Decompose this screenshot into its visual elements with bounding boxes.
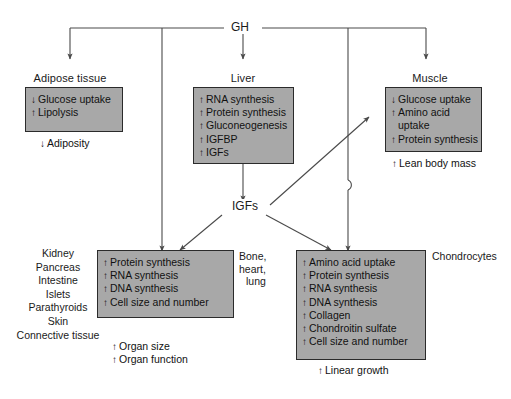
arrow-up-icon: ↑ — [391, 133, 398, 146]
arrow-up-icon: ↑ — [302, 282, 309, 295]
list-item: ↑Cell size and number — [302, 335, 419, 348]
gh-node-label: GH — [226, 20, 254, 34]
chondrocyte-side-label: Chondrocytes — [432, 250, 497, 263]
list-item: ↑Cell size and number — [103, 296, 227, 309]
organ-effects-list: ↑Protein synthesis ↑RNA synthesis ↑DNA s… — [103, 256, 227, 309]
list-item: ↑RNA synthesis — [302, 282, 419, 295]
muscle-outcome: ↑Lean body mass — [392, 157, 476, 170]
muscle-effects-list: ↓Glucose uptake ↑Amino acid uptake ↑Prot… — [391, 93, 475, 146]
arrow-down-icon: ↓ — [31, 93, 38, 106]
list-item: ↑Lipolysis — [31, 106, 116, 119]
organ-effects-box: ↑Protein synthesis ↑RNA synthesis ↑DNA s… — [97, 250, 234, 318]
arrow-up-icon: ↑ — [199, 133, 206, 146]
list-item: ↑Protein synthesis — [391, 133, 475, 146]
arrow-down-icon: ↓ — [40, 137, 47, 150]
organ-side-label: Bone, heart, lung — [239, 250, 266, 288]
organ-outcome-size: ↑Organ size — [112, 340, 170, 353]
list-item: ↓Glucose uptake — [391, 93, 475, 106]
arrow-up-icon: ↑ — [103, 296, 110, 309]
arrow-up-icon: ↑ — [112, 340, 119, 353]
list-item: Kidney — [4, 247, 112, 261]
arrow-up-icon: ↑ — [302, 335, 309, 348]
chondrocyte-effects-list: ↑Amino acid uptake ↑Protein synthesis ↑R… — [302, 256, 419, 348]
list-item: ↑Amino acid uptake — [302, 256, 419, 269]
arrow-down-icon: ↓ — [391, 93, 398, 106]
list-item: ↑DNA synthesis — [103, 282, 227, 295]
adipose-effects-list: ↓Glucose uptake ↑Lipolysis — [31, 93, 116, 119]
list-item: ↑Protein synthesis — [103, 256, 227, 269]
muscle-header: Muscle — [385, 72, 475, 84]
arrow-up-icon: ↑ — [103, 269, 110, 282]
arrow-up-icon: ↑ — [103, 256, 110, 269]
arrow-up-icon: ↑ — [112, 353, 119, 366]
arrow-up-icon: ↑ — [302, 269, 309, 282]
arrow-up-icon: ↑ — [391, 106, 398, 119]
list-item: Pancreas — [4, 261, 112, 275]
adipose-outcome: ↓Adiposity — [40, 137, 90, 150]
list-item: ↑Gluconeogenesis — [199, 119, 287, 132]
organ-side-label-line: Bone, — [239, 250, 266, 263]
list-item: ↑IGFBP — [199, 133, 287, 146]
gh-physiology-diagram: GH Adipose tissue ↓Glucose uptake ↑Lipol… — [0, 0, 511, 399]
list-item: ↓Glucose uptake — [31, 93, 116, 106]
list-item: ↑DNA synthesis — [302, 296, 419, 309]
list-item: ↑RNA synthesis — [103, 269, 227, 282]
chondrocyte-outcome: ↑Linear growth — [318, 364, 389, 377]
list-item: Connective tissue — [4, 329, 112, 343]
list-item: ↑Protein synthesis — [302, 269, 419, 282]
arrow-up-icon: ↑ — [199, 106, 206, 119]
liver-header: Liver — [193, 72, 293, 84]
organ-side-label-line: heart, — [239, 263, 266, 276]
arrow-up-icon: ↑ — [302, 309, 309, 322]
arrow-up-icon: ↑ — [302, 322, 309, 335]
arrow-up-icon: ↑ — [392, 157, 399, 170]
arrow-up-icon: ↑ — [199, 146, 206, 159]
list-item: ↑Amino acid — [391, 106, 475, 119]
list-item: ↑Chondroitin sulfate — [302, 322, 419, 335]
list-item: ↑Protein synthesis — [199, 106, 287, 119]
muscle-effects-box: ↓Glucose uptake ↑Amino acid uptake ↑Prot… — [385, 87, 482, 152]
arrow-up-icon: ↑ — [31, 106, 38, 119]
adipose-header: Adipose tissue — [10, 72, 130, 84]
arrow-up-icon: ↑ — [318, 364, 325, 377]
organ-side-label-line: lung — [239, 275, 266, 288]
organ-outcome-function: ↑Organ function — [112, 353, 188, 366]
organ-tissue-list: Kidney Pancreas Intestine Islets Parathy… — [4, 247, 112, 342]
list-item-continuation: uptake — [391, 119, 475, 132]
igfs-node-label: IGFs — [228, 199, 262, 213]
arrow-up-icon: ↑ — [302, 296, 309, 309]
liver-effects-box: ↑RNA synthesis ↑Protein synthesis ↑Gluco… — [193, 87, 294, 164]
adipose-effects-box: ↓Glucose uptake ↑Lipolysis — [25, 87, 123, 132]
arrow-up-icon: ↑ — [103, 282, 110, 295]
arrow-up-icon: ↑ — [302, 256, 309, 269]
list-item: Islets — [4, 288, 112, 302]
list-item: ↑RNA synthesis — [199, 93, 287, 106]
liver-effects-list: ↑RNA synthesis ↑Protein synthesis ↑Gluco… — [199, 93, 287, 159]
list-item: Parathyroids — [4, 301, 112, 315]
arrow-up-icon: ↑ — [199, 93, 206, 106]
list-item: ↑IGFs — [199, 146, 287, 159]
list-item: Skin — [4, 315, 112, 329]
list-item: Intestine — [4, 274, 112, 288]
arrow-up-icon: ↑ — [199, 119, 206, 132]
chondrocyte-effects-box: ↑Amino acid uptake ↑Protein synthesis ↑R… — [296, 250, 426, 360]
list-item: ↑Collagen — [302, 309, 419, 322]
